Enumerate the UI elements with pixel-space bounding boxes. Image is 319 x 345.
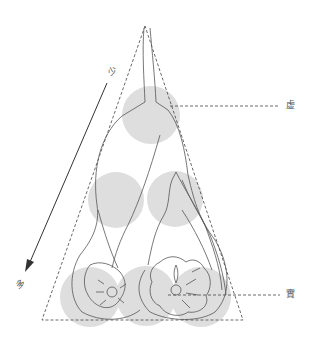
- composition-diagram: [0, 0, 319, 345]
- solid-label: 實: [286, 290, 295, 299]
- arrow-few-to-many: [25, 83, 107, 272]
- circle-bottom-center: [116, 266, 176, 326]
- void-label: 虚: [286, 101, 295, 110]
